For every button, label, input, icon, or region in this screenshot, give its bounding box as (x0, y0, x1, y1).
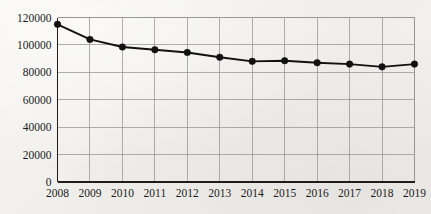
y-tick-label-60000: 60000 (23, 94, 52, 106)
data-point-2009 (87, 36, 94, 43)
y-tick-label-40000: 40000 (23, 121, 52, 133)
x-tick-label-2010: 2010 (111, 187, 134, 199)
y-tick-label-100000: 100000 (17, 39, 52, 51)
data-point-2019 (411, 61, 418, 68)
y-tick-label-20000: 20000 (23, 149, 52, 161)
x-tick-label-2008: 2008 (46, 187, 69, 199)
x-tick-label-2009: 2009 (78, 187, 101, 199)
data-point-2016 (314, 59, 321, 66)
data-point-2014 (249, 58, 256, 65)
horizontal-gridlines (58, 18, 415, 155)
data-series-line (58, 24, 415, 66)
line-chart: 020000400006000080000100000120000 200820… (0, 0, 431, 214)
x-tick-label-2016: 2016 (306, 187, 329, 199)
data-point-2018 (379, 64, 386, 71)
x-tick-label-2017: 2017 (338, 187, 361, 199)
x-tick-label-2019: 2019 (403, 187, 426, 199)
data-point-2008 (54, 21, 61, 28)
x-tick-label-2014: 2014 (241, 187, 264, 199)
x-tick-label-2013: 2013 (208, 187, 231, 199)
data-point-markers (54, 21, 418, 70)
data-point-2010 (119, 44, 126, 51)
y-tick-label-80000: 80000 (23, 66, 52, 78)
data-point-2011 (152, 46, 159, 53)
data-point-2013 (216, 54, 223, 61)
data-point-2012 (184, 49, 191, 56)
series-line-series-1 (58, 24, 415, 66)
data-point-2015 (281, 57, 288, 64)
y-tick-label-120000: 120000 (17, 12, 52, 24)
x-axis-tick-labels: 2008200920102011201220132014201520162017… (46, 187, 426, 199)
y-axis-tick-labels: 020000400006000080000100000120000 (17, 12, 52, 189)
x-tick-label-2015: 2015 (273, 187, 296, 199)
x-tick-label-2012: 2012 (176, 187, 199, 199)
data-point-2017 (346, 61, 353, 68)
x-tick-label-2011: 2011 (144, 187, 167, 199)
x-tick-label-2018: 2018 (371, 187, 394, 199)
chart-canvas: 020000400006000080000100000120000 200820… (0, 0, 431, 214)
